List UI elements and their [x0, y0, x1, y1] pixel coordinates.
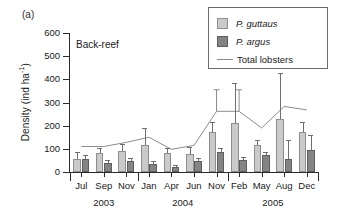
y-tick-mark — [63, 56, 69, 57]
x-tick-mark — [217, 172, 218, 177]
legend-item: P. argus — [217, 34, 270, 48]
error-bar-cap — [187, 147, 192, 148]
y-tick-mark — [63, 149, 69, 150]
x-tick-label: Feb — [231, 180, 247, 191]
bar-argus — [194, 161, 202, 172]
error-bar-cap — [165, 148, 170, 149]
y-tick-mark — [63, 103, 69, 104]
error-bar-stem — [280, 73, 281, 119]
x-axis-group-separator — [70, 172, 71, 181]
x-tick-label: Aug — [276, 180, 293, 191]
x-tick-mark — [104, 172, 105, 177]
error-bar-cap — [218, 148, 223, 149]
error-bar-cap — [120, 144, 125, 145]
error-bar-stem — [303, 122, 304, 132]
bar-guttaus — [141, 145, 149, 172]
error-bar-cap — [128, 158, 133, 159]
legend-label: P. argus — [236, 36, 270, 47]
bar-argus — [127, 161, 135, 172]
error-bar-cap — [255, 140, 260, 141]
y-axis-title-exponent: -1 — [18, 67, 25, 73]
y-tick-label: 200 — [36, 120, 60, 131]
x-tick-mark — [171, 172, 172, 177]
bar-guttaus — [209, 132, 217, 172]
error-bar-stem — [77, 152, 78, 160]
bar-argus — [104, 163, 112, 172]
bar-guttaus — [118, 151, 126, 172]
y-tick-mark — [63, 172, 69, 173]
legend-line-icon — [217, 59, 233, 60]
bar-guttaus — [164, 153, 172, 172]
x-tick-label: Nov — [118, 180, 135, 191]
error-bar-stem — [190, 147, 191, 154]
x-tick-label: Jul — [75, 180, 87, 191]
error-bar-cap — [286, 140, 291, 141]
x-tick-mark — [194, 172, 195, 177]
legend-swatch-icon — [217, 18, 228, 29]
error-bar-cap — [142, 128, 147, 129]
x-tick-mark — [262, 172, 263, 177]
x-tick-label: Apr — [164, 180, 179, 191]
x-axis-group-separator — [228, 172, 229, 181]
error-bar-cap — [97, 148, 102, 149]
x-tick-label: Jan — [141, 180, 156, 191]
y-tick-label: 0 — [36, 166, 60, 177]
error-bar-cap — [232, 83, 237, 84]
error-bar-cap — [278, 73, 283, 74]
y-tick-label: 500 — [36, 50, 60, 61]
error-bar-stem — [122, 144, 123, 151]
error-bar-cap — [300, 122, 305, 123]
bar-guttaus — [73, 159, 81, 172]
x-tick-mark — [126, 172, 127, 177]
bar-guttaus — [231, 123, 239, 172]
bar-argus — [307, 150, 315, 172]
x-axis-year-label: 2005 — [262, 197, 283, 208]
bar-guttaus — [186, 154, 194, 172]
bar-guttaus — [276, 119, 284, 172]
y-axis-title: Density (ind ha-1) — [18, 35, 30, 170]
x-tick-mark — [239, 172, 240, 177]
error-bar-stem — [145, 128, 146, 145]
legend-item: Total lobsters — [217, 52, 293, 66]
error-bar-cap — [241, 157, 246, 158]
bar-argus — [285, 159, 293, 172]
panel-label: (a) — [22, 9, 34, 20]
y-tick-label: 100 — [36, 143, 60, 154]
x-axis-group-separator — [318, 172, 319, 181]
x-tick-label: Jun — [186, 180, 201, 191]
error-bar-cap — [263, 152, 268, 153]
x-axis-year-label: 2004 — [172, 197, 193, 208]
error-bar-cap — [83, 155, 88, 156]
x-axis-group-separator — [138, 172, 139, 181]
y-tick-label: 400 — [36, 73, 60, 84]
x-tick-mark — [81, 172, 82, 177]
error-bar-cap — [196, 158, 201, 159]
error-bar-cap — [105, 160, 110, 161]
legend-swatch-icon — [217, 36, 228, 47]
legend-item: P. guttaus — [217, 16, 278, 30]
error-bar-cap — [308, 135, 313, 136]
error-bar-stem — [235, 83, 236, 123]
bar-guttaus — [254, 145, 262, 172]
y-tick-mark — [63, 79, 69, 80]
y-tick-label: 300 — [36, 97, 60, 108]
error-bar-cap — [173, 165, 178, 166]
legend-label: P. guttaus — [236, 18, 278, 29]
x-tick-label: Dec — [298, 180, 315, 191]
x-tick-label: Sep — [95, 180, 112, 191]
error-bar-stem — [311, 135, 312, 150]
error-bar-cap — [210, 122, 215, 123]
y-tick-label: 600 — [36, 27, 60, 38]
x-tick-mark — [149, 172, 150, 177]
y-axis-title-text: Density (ind ha — [20, 73, 31, 141]
chart-figure: (a) Density (ind ha-1) 01002003004005006… — [0, 0, 340, 222]
y-axis-title-tail: ) — [20, 63, 31, 66]
bar-argus — [82, 159, 90, 172]
x-axis-year-label: 2003 — [93, 197, 114, 208]
legend: P. guttausP. argusTotal lobsters — [208, 7, 328, 69]
x-tick-label: May — [253, 180, 271, 191]
y-tick-mark — [63, 33, 69, 34]
legend-label: Total lobsters — [237, 54, 293, 65]
total-lobsters-polyline — [81, 106, 306, 149]
bar-guttaus — [299, 132, 307, 172]
